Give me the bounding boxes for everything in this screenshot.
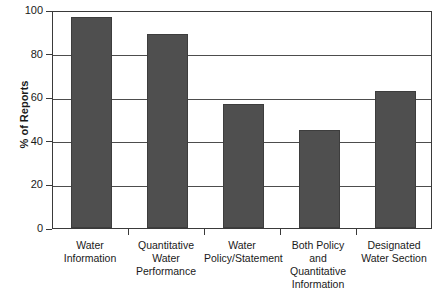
y-axis-tick bbox=[46, 141, 52, 142]
bar bbox=[223, 104, 264, 228]
x-axis-category-label: DesignatedWater Section bbox=[356, 239, 432, 265]
y-axis-tick-label: 40 bbox=[11, 136, 43, 147]
x-axis-tick bbox=[128, 229, 129, 235]
x-axis-category-label-line: Information bbox=[280, 278, 356, 291]
plot-area bbox=[52, 11, 432, 229]
x-axis-tick bbox=[280, 229, 281, 235]
bar bbox=[299, 130, 340, 228]
y-axis-tick-label: 60 bbox=[11, 92, 43, 103]
bar bbox=[375, 91, 416, 228]
x-axis-category-label-line: Quantitative bbox=[280, 265, 356, 278]
y-axis-tick bbox=[46, 54, 52, 55]
y-axis-tick bbox=[46, 185, 52, 186]
x-axis-category-label: WaterPolicy/Statement bbox=[204, 239, 280, 265]
x-axis-category-label: WaterInformation bbox=[52, 239, 128, 265]
y-axis-tick-label: 100 bbox=[11, 5, 43, 16]
y-axis-tick bbox=[46, 11, 52, 12]
x-axis-category-label-line: Both Policy bbox=[280, 239, 356, 252]
y-axis-tick bbox=[46, 98, 52, 99]
y-axis-tick bbox=[46, 229, 52, 230]
y-axis-tick-labels: 020406080100 bbox=[0, 0, 43, 294]
x-axis-category-label-line: and bbox=[280, 252, 356, 265]
x-axis-tick bbox=[356, 229, 357, 235]
x-axis-category-label-line: Water bbox=[204, 239, 280, 252]
y-axis-tick-label: 80 bbox=[11, 49, 43, 60]
x-axis-category-label-line: Performance bbox=[128, 265, 204, 278]
bar-chart: % of Reports 020406080100 WaterInformati… bbox=[0, 0, 442, 294]
y-axis-tick-label: 0 bbox=[11, 223, 43, 234]
x-axis-category-label-line: Quantitative bbox=[128, 239, 204, 252]
x-axis-category-label-line: Water Section bbox=[356, 252, 432, 265]
bar bbox=[71, 17, 112, 228]
x-axis-category-label-line: Designated bbox=[356, 239, 432, 252]
y-axis-tick-label: 20 bbox=[11, 179, 43, 190]
x-axis-category-label-line: Information bbox=[52, 252, 128, 265]
bar bbox=[147, 34, 188, 228]
x-axis-category-label-line: Water bbox=[52, 239, 128, 252]
x-axis-tick bbox=[204, 229, 205, 235]
x-axis-category-label: Both PolicyandQuantitativeInformation bbox=[280, 239, 356, 291]
x-axis-category-labels: WaterInformationQuantitativeWaterPerform… bbox=[52, 239, 432, 294]
x-axis-category-label-line: Policy/Statement bbox=[204, 252, 280, 265]
x-axis-category-label: QuantitativeWaterPerformance bbox=[128, 239, 204, 278]
x-axis-category-label-line: Water bbox=[128, 252, 204, 265]
